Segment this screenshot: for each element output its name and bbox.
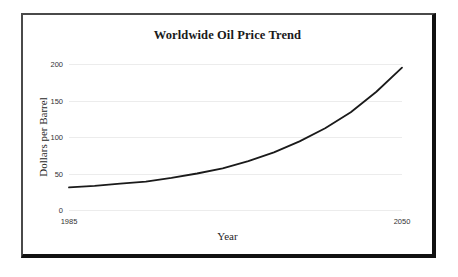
y-tick-label-50: 50 — [55, 169, 63, 178]
y-tick-label-200: 200 — [50, 60, 63, 69]
chart-page: Worldwide Oil Price Trend Dollars per Ba… — [0, 0, 458, 277]
y-tick-label-0: 0 — [59, 206, 63, 215]
gridline-0 — [69, 210, 402, 211]
chart-frame: Worldwide Oil Price Trend Dollars per Ba… — [21, 13, 436, 258]
y-tick-label-100: 100 — [50, 133, 63, 142]
x-tick-label-end: 2050 — [394, 217, 411, 226]
y-tick-label-150: 150 — [50, 96, 63, 105]
x-tick-label-start: 1985 — [61, 217, 78, 226]
x-axis-label: Year — [23, 230, 432, 242]
oil-price-line-series — [69, 64, 402, 210]
chart-title: Worldwide Oil Price Trend — [23, 28, 432, 43]
plot-area: 200 150 100 50 0 1985 2050 — [69, 64, 402, 210]
y-axis-label-text: Dollars per Barrel — [37, 97, 49, 176]
y-axis-label: Dollars per Barrel — [35, 64, 51, 210]
